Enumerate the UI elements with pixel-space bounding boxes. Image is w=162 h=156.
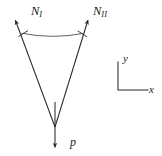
force-label-left-subscript: I [39, 9, 42, 19]
axis-label-x: x [149, 84, 154, 95]
force-label-right: NII [93, 5, 107, 19]
chord-curve [22, 33, 84, 36]
force-label-right-subscript: II [101, 9, 107, 19]
force-diagram: NI NII p y x [0, 0, 162, 156]
axis-label-y: y [123, 53, 128, 64]
coordinate-axes [118, 62, 148, 90]
force-label-left: NI [31, 5, 42, 19]
diagram-canvas [0, 0, 162, 156]
load-label: p [70, 136, 76, 148]
